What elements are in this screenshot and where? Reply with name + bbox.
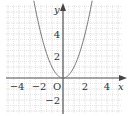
- axes: [6, 3, 127, 114]
- x-tick-label: −2: [32, 81, 47, 92]
- grid: [6, 5, 122, 113]
- y-tick-label: 2: [54, 51, 60, 62]
- y-tick-label: 4: [54, 29, 60, 40]
- y-tick-label: −2: [45, 95, 60, 106]
- x-tick-label: 2: [82, 81, 88, 92]
- x-tick-label: 4: [104, 81, 110, 92]
- x-axis-label: x: [118, 81, 124, 92]
- y-axis-label: y: [53, 4, 60, 15]
- parabola-chart: −4−22442−2 x y O: [0, 0, 130, 116]
- x-tick-label: −4: [10, 81, 25, 92]
- origin-label: O: [53, 81, 61, 92]
- y-axis-arrow-icon: [60, 3, 66, 11]
